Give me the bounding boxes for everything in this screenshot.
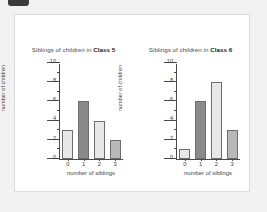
y-tick-label-6: 6	[170, 97, 173, 103]
y-tick-label-10: 10	[50, 59, 56, 65]
x-tick-label-3: 3	[107, 161, 123, 167]
chart-title-prefix: Siblings of children in	[149, 46, 210, 53]
bar-slot: 0	[60, 64, 76, 159]
plot-frame: 0 2 4 6 8 10 0	[59, 64, 123, 160]
plot-area-class-6: number of children 0 2 4 6 8 10	[158, 64, 240, 164]
figure-panel: Siblings of children in Class 5 number o…	[14, 14, 250, 192]
chart-title-emphasis: Class 6	[210, 46, 232, 53]
y-tick-label-2: 2	[53, 136, 56, 142]
y-axis-title: number of children	[117, 40, 127, 136]
y-tick-2: 2	[47, 139, 60, 140]
y-tick-label-4: 4	[170, 116, 173, 122]
corner-badge	[8, 0, 29, 6]
y-tick-8: 8	[164, 81, 177, 82]
bar-2[interactable]	[211, 82, 222, 159]
bar-slot: 2	[209, 64, 225, 159]
chart-title-class-5: Siblings of children in Class 5	[15, 46, 132, 53]
y-axis-title: number of children	[0, 40, 10, 136]
y-tick-6: 6	[47, 100, 60, 101]
chart-class-6: Siblings of children in Class 6 number o…	[132, 15, 249, 191]
bar-2[interactable]	[94, 121, 105, 159]
x-tick-label-0: 0	[60, 161, 76, 167]
y-tick-label-8: 8	[53, 78, 56, 84]
y-tick-label-4: 4	[53, 116, 56, 122]
y-tick-6: 6	[164, 100, 177, 101]
y-tick-label-6: 6	[53, 97, 56, 103]
bar-3[interactable]	[110, 140, 121, 159]
chart-title-class-6: Siblings of children in Class 6	[132, 46, 249, 53]
bar-slot: 1	[193, 64, 209, 159]
x-tick-label-0: 0	[177, 161, 193, 167]
y-tick-4: 4	[164, 120, 177, 121]
plot-area-class-5: number of children 0 2 4 6 8 10	[41, 64, 123, 164]
bar-0[interactable]	[62, 130, 73, 159]
y-tick-8: 8	[47, 81, 60, 82]
x-tick-label-2: 2	[92, 161, 108, 167]
x-tick-label-2: 2	[209, 161, 225, 167]
charts-row: Siblings of children in Class 5 number o…	[15, 15, 249, 191]
chart-title-prefix: Siblings of children in	[32, 46, 93, 53]
y-tick-label-8: 8	[170, 78, 173, 84]
bar-slot: 2	[92, 64, 108, 159]
y-tick-10: 10	[47, 62, 60, 63]
y-tick-label-2: 2	[170, 136, 173, 142]
chart-class-5: Siblings of children in Class 5 number o…	[15, 15, 132, 191]
bar-slot: 1	[76, 64, 92, 159]
y-tick-10: 10	[164, 62, 177, 63]
y-tick-label-10: 10	[167, 59, 173, 65]
x-axis-title: number of siblings	[176, 170, 240, 176]
bar-1[interactable]	[78, 101, 89, 159]
x-tick-label-1: 1	[76, 161, 92, 167]
x-tick-label-3: 3	[224, 161, 240, 167]
bar-1[interactable]	[195, 101, 206, 159]
y-tick-label-0: 0	[53, 155, 56, 161]
y-tick-0: 0	[47, 158, 60, 159]
bar-0[interactable]	[179, 149, 190, 159]
bar-series-class-6: 0 1 2	[177, 64, 240, 159]
y-tick-label-0: 0	[170, 155, 173, 161]
y-tick-2: 2	[164, 139, 177, 140]
y-tick-0: 0	[164, 158, 177, 159]
bar-slot: 0	[177, 64, 193, 159]
x-tick-label-1: 1	[193, 161, 209, 167]
bar-3[interactable]	[227, 130, 238, 159]
bar-series-class-5: 0 1 2	[60, 64, 123, 159]
plot-frame: 0 2 4 6 8 10 0	[176, 64, 240, 160]
bar-slot: 3	[224, 64, 240, 159]
chart-title-emphasis: Class 5	[93, 46, 115, 53]
x-axis-title: number of siblings	[59, 170, 123, 176]
y-tick-4: 4	[47, 120, 60, 121]
